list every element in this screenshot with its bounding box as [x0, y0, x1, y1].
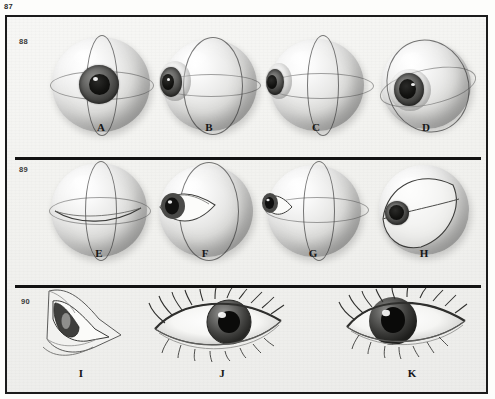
- figure-row-89: 89 E: [7, 147, 486, 274]
- pupil-C: [267, 75, 277, 89]
- figure-number-89: 89: [19, 165, 28, 174]
- scanned-plate-page: 87 88 A: [0, 0, 495, 399]
- figure-row-88: 88 A B: [7, 17, 486, 145]
- caption-G: G: [293, 247, 333, 259]
- caption-I: I: [61, 367, 101, 379]
- eye-frontal-finished-J: [147, 287, 297, 367]
- caption-H: H: [404, 247, 444, 259]
- caption-A: A: [81, 121, 121, 133]
- eye-three-quarter-finished-K: [337, 287, 487, 367]
- corneal-glint-D: [411, 83, 415, 86]
- figure-row-90: 90 I: [7, 275, 486, 393]
- corneal-glint-A: [93, 77, 98, 81]
- caption-J: J: [202, 367, 242, 379]
- caption-B: B: [189, 121, 229, 133]
- caption-E: E: [79, 247, 119, 259]
- plate-number-87: 87: [4, 2, 13, 11]
- figure-number-88: 88: [19, 37, 28, 46]
- eyelid-aperture-G: [260, 189, 308, 223]
- figure-number-90: 90: [21, 297, 30, 306]
- figure-frame: 88 A B: [5, 15, 488, 394]
- palpebral-fissure-line-E: [51, 195, 151, 229]
- corneal-glint-B: [167, 78, 170, 81]
- pupil-D: [399, 79, 416, 99]
- eyelid-aperture-F: [157, 185, 237, 231]
- pupil-B: [162, 74, 174, 90]
- caption-K: K: [392, 367, 432, 379]
- pupil-A: [89, 74, 110, 95]
- pupil-H: [389, 205, 404, 220]
- caption-D: D: [406, 121, 446, 133]
- eye-lateral-construction-I: [35, 285, 135, 369]
- caption-C: C: [296, 121, 336, 133]
- caption-F: F: [185, 247, 225, 259]
